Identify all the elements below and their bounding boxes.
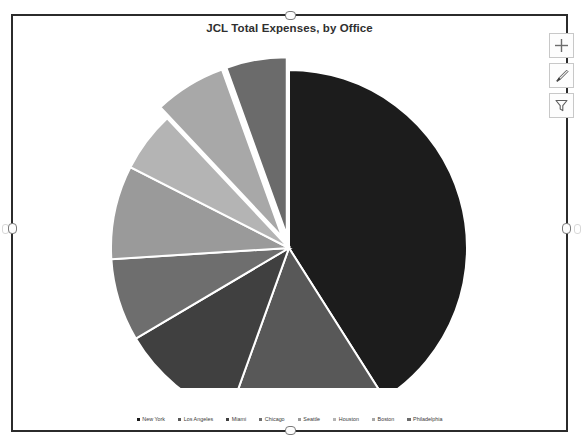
legend-swatch-icon	[372, 418, 375, 421]
legend-swatch-icon	[137, 418, 140, 421]
resize-handle-top[interactable]	[285, 11, 296, 20]
legend-label: Houston	[339, 417, 359, 422]
legend-swatch-icon	[226, 418, 229, 421]
legend-label: Los Angeles	[184, 417, 213, 422]
page-edge-mark-right	[574, 224, 581, 234]
legend-swatch-icon	[407, 418, 410, 421]
chart-filters-button[interactable]	[549, 93, 574, 118]
funnel-icon	[554, 98, 569, 113]
legend-swatch-icon	[333, 418, 336, 421]
chart-styles-button[interactable]	[549, 63, 574, 88]
legend-item[interactable]: Miami	[226, 417, 246, 422]
legend-swatch-icon	[259, 418, 262, 421]
legend-item[interactable]: New York	[137, 417, 165, 422]
legend-label: Miami	[232, 417, 246, 422]
legend-label: Boston	[378, 417, 395, 422]
chart-title[interactable]: JCL Total Expenses, by Office	[13, 22, 566, 34]
legend-label: Seattle	[303, 417, 320, 422]
legend-item[interactable]: Philadelphia	[407, 417, 442, 422]
chart-object[interactable]: JCL Total Expenses, by Office New YorkLo…	[11, 14, 568, 432]
chart-legend[interactable]: New YorkLos AngelesMiamiChicagoSeattleHo…	[13, 417, 566, 422]
resize-handle-bottom[interactable]	[285, 426, 296, 435]
chart-buttons-toolbar[interactable]	[549, 33, 574, 118]
brush-icon	[554, 68, 570, 84]
plus-icon	[554, 38, 569, 53]
legend-item[interactable]: Seattle	[298, 417, 320, 422]
legend-item[interactable]: Los Angeles	[178, 417, 213, 422]
legend-label: Chicago	[265, 417, 285, 422]
legend-swatch-icon	[298, 418, 301, 421]
legend-label: New York	[142, 417, 165, 422]
chart-elements-button[interactable]	[549, 33, 574, 58]
legend-swatch-icon	[178, 418, 181, 421]
legend-item[interactable]: Chicago	[259, 417, 284, 422]
pie-chart[interactable]	[13, 38, 566, 388]
legend-item[interactable]: Boston	[372, 417, 394, 422]
legend-label: Philadelphia	[413, 417, 442, 422]
plot-area[interactable]	[13, 38, 566, 388]
legend-item[interactable]: Houston	[333, 417, 359, 422]
